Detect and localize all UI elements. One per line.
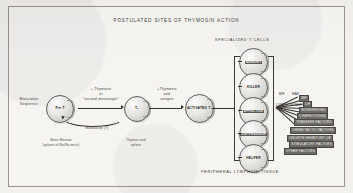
cell-t1-label: T₁ (135, 107, 139, 111)
specialized-cell-suppressor-label: SUPPRESSOR (240, 133, 267, 137)
lymphokine-item-transfer-factors[interactable]: TRANSFER FACTORS (294, 119, 334, 126)
figure-title: POSTULATED SITES OF THYMOSIN ACTION (0, 19, 353, 24)
arrow1-label-line3: "second messenger" (74, 98, 128, 102)
modulation-curve (62, 108, 124, 127)
specialized-cell-effector-label: EFFECTOR (243, 110, 264, 114)
lymphokine-item-other-factors[interactable]: OTHER FACTORS (284, 148, 317, 155)
lymphokine-top-label-mif: MIF (279, 92, 285, 96)
specialized-cells-right-bracket (268, 56, 274, 161)
specialized-cell-memory-label: MEMORY (245, 61, 263, 65)
arrow-t1-to-activated (150, 108, 182, 109)
tick-suppressor (238, 133, 242, 134)
arrow-t1-to-activated-head (181, 105, 184, 109)
cell-activated-t2-label: ACTIVATED T₂ (187, 107, 212, 111)
connector-to-specialized (212, 108, 234, 109)
specialized-cell-helper-label: HELPER (246, 157, 261, 161)
tick-memory (238, 61, 242, 62)
cell-activated-t2[interactable]: ACTIVATED T₂ (185, 94, 214, 123)
tick-effector (238, 110, 242, 111)
diagram-canvas: POSTULATED SITES OF THYMOSIN ACTION Matu… (0, 0, 353, 193)
thymus-caption-line2: spleen (110, 144, 162, 147)
bone-marrow-caption-line1: Bone Marrow (32, 139, 90, 142)
cell-t1[interactable]: T₁ (124, 96, 150, 122)
specialized-cell-killer-label: KILLER (247, 86, 260, 90)
arrow2-label-line3: antigen (149, 98, 185, 102)
tick-killer (238, 86, 242, 87)
lymphokine-item-stimulatory-factors[interactable]: STIMULATORY FACTORS (289, 141, 334, 148)
tick-helper (238, 157, 242, 158)
lymphokine-item-chemotactic-factors[interactable]: CHEMOTACTIC FACTORS (290, 127, 336, 134)
maturation-sequence-label-line2: Sequence (16, 103, 42, 107)
specialized-cells-header: SPECIALIZED T CELLS (197, 38, 287, 42)
thymus-caption-line1: Thymus and (110, 139, 162, 142)
bone-marrow-caption-line2: (spleen of Nu/Nu mice) (26, 144, 96, 147)
modulation-label: Modulation (?) (72, 127, 122, 130)
peripheral-lymphoid-tissue-caption: PERIPHERAL LYMPHOID TISSUE (190, 170, 290, 174)
